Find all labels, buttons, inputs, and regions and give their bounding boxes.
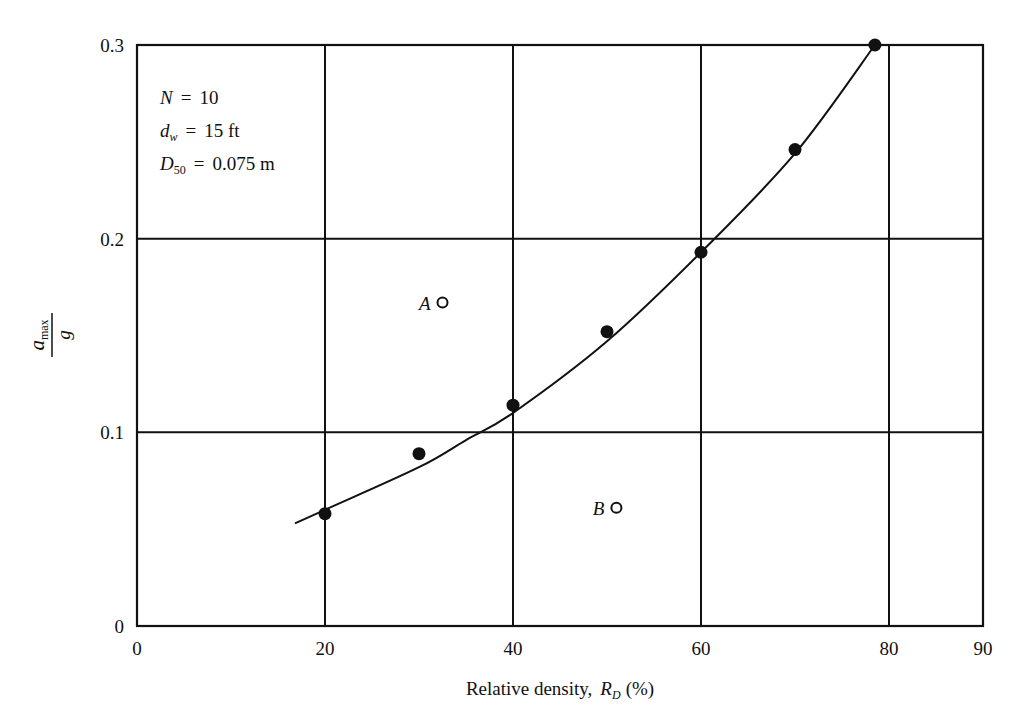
data-point <box>789 143 802 156</box>
x-tick-label: 0 <box>132 638 142 659</box>
annotation-d50: D50=0.075 m <box>159 153 275 177</box>
x-axis-label: Relative density,RD(%) <box>466 678 654 702</box>
data-points <box>319 39 882 521</box>
y-tick-label: 0.2 <box>100 229 124 250</box>
data-point <box>868 39 881 52</box>
data-point <box>507 399 520 412</box>
data-point <box>413 447 426 460</box>
data-point <box>601 325 614 338</box>
chart: 02040608090 00.10.20.3 AB N=10 dw=15 ft … <box>0 0 1031 727</box>
y-tick-label: 0.3 <box>100 35 124 56</box>
x-tick-label: 40 <box>504 638 523 659</box>
open-point-a <box>438 298 448 308</box>
grid-lines <box>137 45 983 626</box>
y-axis-ticks: 00.10.20.3 <box>100 35 124 637</box>
point-label-a: A <box>417 293 431 314</box>
plot-frame <box>137 45 983 626</box>
x-tick-label: 20 <box>316 638 335 659</box>
y-axis-label: amax g <box>25 313 74 357</box>
point-label-b: B <box>593 498 605 519</box>
x-tick-label: 80 <box>880 638 899 659</box>
annotation-dw: dw=15 ft <box>160 120 240 144</box>
y-tick-label: 0 <box>115 616 125 637</box>
data-point <box>695 246 708 259</box>
svg-text:g: g <box>53 330 74 340</box>
y-tick-label: 0.1 <box>100 422 124 443</box>
x-axis-ticks: 02040608090 <box>132 638 992 659</box>
data-point <box>319 507 332 520</box>
annotation-n: N=10 <box>159 87 218 108</box>
x-tick-label: 60 <box>692 638 711 659</box>
fitted-curve <box>295 45 875 523</box>
parameter-annotations: N=10 dw=15 ft D50=0.075 m <box>159 87 275 177</box>
open-point-b <box>611 503 621 513</box>
svg-text:Relative density,RD(%): Relative density,RD(%) <box>466 678 654 702</box>
svg-text:amax: amax <box>25 319 51 350</box>
x-tick-label: 90 <box>974 638 993 659</box>
